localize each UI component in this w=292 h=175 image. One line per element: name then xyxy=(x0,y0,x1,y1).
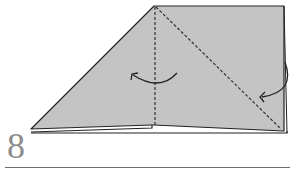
diagram-canvas: 8 xyxy=(0,0,292,175)
divider-rule xyxy=(5,167,290,168)
paper-shape xyxy=(31,6,284,131)
origami-diagram xyxy=(0,0,292,175)
step-number: 8 xyxy=(7,128,25,164)
